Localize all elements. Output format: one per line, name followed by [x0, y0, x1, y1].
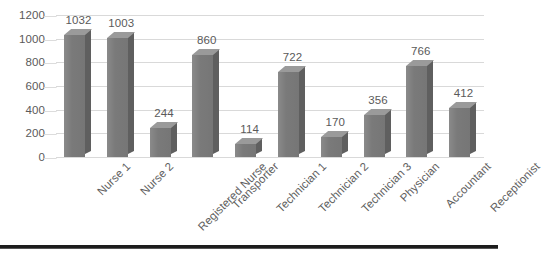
y-axis-tick-label: 800	[26, 56, 46, 68]
y-axis-tick-label: 1200	[19, 9, 45, 21]
bar-value-label: 1003	[108, 17, 134, 29]
bar[interactable]	[192, 48, 220, 157]
bar[interactable]	[278, 65, 306, 157]
bar-value-label: 1032	[65, 14, 91, 26]
bar-side-face	[385, 109, 391, 154]
bar-value-label: 170	[325, 116, 345, 128]
bar-front-face	[449, 108, 470, 157]
x-axis-category-labels: Nurse 1Nurse 2Registered NurseTransporte…	[56, 160, 484, 240]
bottom-divider-rule	[0, 245, 498, 249]
bar-front-face	[364, 115, 385, 157]
x-axis-tick-label: Accountant	[443, 160, 493, 210]
bar[interactable]	[449, 101, 477, 157]
x-axis-tick-label: Registered Nurse	[196, 160, 269, 233]
bar-front-face	[192, 55, 213, 157]
bar[interactable]	[235, 137, 263, 157]
y-axis-tick-label: 1000	[19, 33, 45, 45]
bar-value-label: 356	[368, 94, 388, 106]
bar[interactable]	[64, 28, 92, 157]
bar-side-face	[427, 60, 433, 154]
bar-front-face	[406, 66, 427, 157]
bar[interactable]	[150, 121, 178, 157]
bar-side-face	[470, 102, 476, 154]
y-axis-tick-label: 400	[26, 104, 46, 116]
bar-front-face	[235, 144, 256, 157]
bar-front-face	[150, 128, 171, 157]
bar-value-label: 860	[197, 34, 217, 46]
bar[interactable]	[321, 130, 349, 157]
bar-value-label: 412	[454, 87, 474, 99]
bar[interactable]	[406, 59, 434, 157]
y-axis-tick-label: 200	[26, 127, 46, 139]
bar-side-face	[128, 32, 134, 154]
gridline	[56, 15, 484, 16]
bar[interactable]	[364, 108, 392, 157]
x-axis-tick-label: Nurse 1	[95, 160, 132, 197]
bar-side-face	[213, 49, 219, 154]
bar-side-face	[299, 66, 305, 154]
bar-value-label: 766	[411, 45, 431, 57]
gridline	[56, 157, 484, 158]
y-axis-tick-label: 600	[26, 80, 46, 92]
x-axis-tick-label: Receptionist	[487, 160, 541, 214]
y-axis: 120010008006004002000	[0, 15, 50, 157]
bar-front-face	[107, 38, 128, 157]
plot-area: 10321003244860114722170356766412	[56, 15, 484, 157]
bar-front-face	[64, 35, 85, 157]
bar[interactable]	[107, 31, 135, 157]
bar-side-face	[85, 29, 91, 154]
bar-value-label: 722	[283, 51, 303, 63]
bar-value-label: 114	[240, 123, 259, 135]
bar-front-face	[278, 72, 299, 157]
bar-value-label: 244	[154, 107, 174, 119]
bar-front-face	[321, 137, 342, 157]
x-axis-tick-label: Nurse 2	[138, 160, 175, 197]
